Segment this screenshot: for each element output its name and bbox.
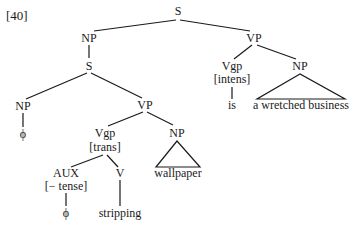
node-vp-embedded: VP — [137, 99, 152, 111]
node-np-object: NP — [169, 127, 184, 139]
tree-branches — [0, 0, 352, 228]
triangle-wallpaper — [156, 141, 200, 167]
node-np-predicate: NP — [292, 60, 307, 72]
feature-intens: [intens] — [214, 73, 251, 85]
example-number: [40] — [6, 9, 28, 22]
branch-embs-np — [26, 73, 87, 99]
node-np-embedded: NP — [15, 100, 30, 112]
branch-embs-vp — [91, 73, 142, 98]
leaf-phi-aux: ϕ — [63, 207, 69, 219]
triangle-wretched-business — [257, 74, 345, 99]
leaf-stripping: stripping — [99, 207, 142, 219]
branch-mainvp-np — [257, 45, 296, 59]
node-vgp-trans: Vgp — [95, 127, 116, 139]
node-v: V — [116, 167, 125, 179]
branch-mainvp-vgp — [234, 45, 252, 59]
node-vgp-intens: Vgp — [222, 60, 243, 72]
branch-s-vp — [180, 20, 250, 31]
branch-s-np — [94, 20, 176, 31]
leaf-a-wretched-business: a wretched business — [253, 99, 349, 111]
node-np-subject: NP — [81, 32, 96, 44]
feature-minus-tense: [− tense] — [45, 180, 87, 192]
leaf-is: is — [228, 99, 236, 111]
leaf-wallpaper: wallpaper — [154, 167, 201, 179]
node-s-root: S — [175, 5, 182, 17]
leaf-phi-np: ϕ — [20, 128, 26, 140]
node-aux: AUX — [53, 167, 79, 179]
node-s-embedded: S — [86, 60, 93, 72]
feature-trans: [trans] — [89, 141, 120, 153]
branch-vp-vgp — [108, 112, 143, 126]
syntax-tree-diagram: [40] S NP S NP ϕ VP Vgp [trans] AUX [− t… — [0, 0, 352, 228]
branch-vp-np — [147, 112, 173, 125]
node-vp-main: VP — [246, 32, 261, 44]
